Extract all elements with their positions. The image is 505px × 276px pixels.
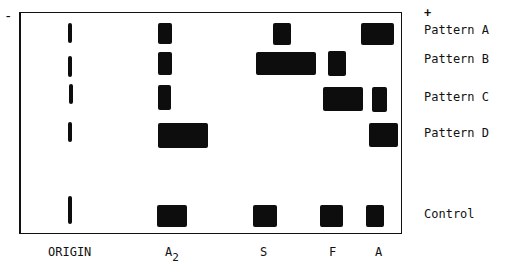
protein-band (158, 52, 172, 75)
protein-band (366, 205, 384, 227)
protein-band (157, 205, 187, 227)
column-label-a: A (375, 245, 382, 259)
protein-band (158, 123, 208, 148)
protein-band (323, 87, 363, 111)
protein-band (369, 123, 398, 147)
protein-band (256, 52, 316, 75)
protein-band (372, 87, 387, 112)
protein-band (273, 23, 291, 45)
column-label-f: F (329, 245, 336, 259)
origin-mark (68, 196, 72, 224)
protein-band (158, 85, 171, 110)
row-label-pattern-b: Pattern B (424, 52, 489, 66)
negative-pole-marker: - (4, 8, 12, 24)
protein-band (328, 51, 346, 76)
origin-mark (69, 84, 73, 104)
protein-band (158, 23, 172, 44)
row-label-pattern-d: Pattern D (424, 126, 489, 140)
protein-band (320, 205, 343, 227)
origin-mark (68, 23, 72, 43)
positive-pole-marker: + (424, 6, 431, 20)
protein-band (253, 205, 277, 227)
origin-mark (68, 122, 72, 142)
row-label-pattern-c: Pattern C (424, 90, 489, 104)
column-label-a2: A2 (165, 245, 179, 264)
electrophoresis-frame (19, 12, 402, 234)
row-label-control: Control (424, 207, 475, 221)
row-label-pattern-a: Pattern A (424, 23, 489, 37)
column-label-origin: ORIGIN (48, 245, 91, 259)
origin-mark (68, 56, 72, 77)
column-label-s: S (260, 245, 267, 259)
protein-band (361, 23, 394, 45)
